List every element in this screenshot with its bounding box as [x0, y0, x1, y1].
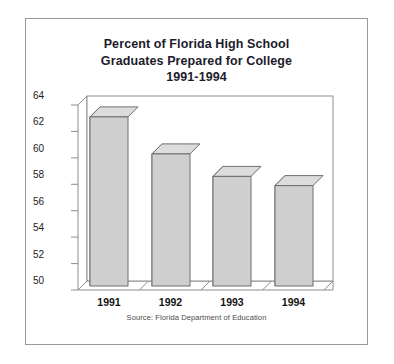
- y-tick-label-60: 60: [18, 143, 44, 154]
- y-tick-label-62: 62: [18, 116, 44, 127]
- y-tick-label-50: 50: [18, 275, 44, 286]
- y-tick-label-58: 58: [18, 169, 44, 180]
- x-tick-label-1991: 1991: [81, 296, 137, 308]
- x-tick-label-1993: 1993: [204, 296, 260, 308]
- x-tick-label-1992: 1992: [143, 296, 199, 308]
- bar-1991: [90, 106, 138, 286]
- bar-1994: [275, 106, 323, 286]
- y-tick-label-54: 54: [18, 222, 44, 233]
- x-tick-label-1994: 1994: [266, 296, 322, 308]
- bar-1993: [213, 106, 261, 286]
- y-tick-label-52: 52: [18, 249, 44, 260]
- y-tick-label-56: 56: [18, 196, 44, 207]
- plot-area: 64 62 60 58 56 54 52 50: [78, 96, 333, 290]
- source-note: Source: Florida Department of Education: [25, 313, 368, 322]
- chart-figure: Percent of Florida High School Graduates…: [0, 0, 394, 364]
- bar-1992: [152, 106, 200, 286]
- y-tick-label-64: 64: [18, 90, 44, 101]
